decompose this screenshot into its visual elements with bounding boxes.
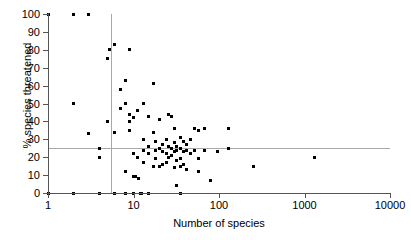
data-point bbox=[87, 13, 90, 16]
data-point bbox=[147, 145, 150, 148]
data-point bbox=[128, 129, 131, 132]
data-point bbox=[132, 152, 135, 155]
data-point bbox=[197, 157, 200, 160]
data-point bbox=[173, 127, 176, 130]
data-point bbox=[137, 177, 140, 180]
x-axis-tick bbox=[390, 193, 391, 198]
data-point bbox=[161, 143, 164, 146]
data-point bbox=[106, 57, 109, 60]
data-point bbox=[152, 131, 155, 134]
data-point bbox=[185, 168, 188, 171]
data-point bbox=[185, 149, 188, 152]
data-point bbox=[154, 149, 157, 152]
y-axis-tick bbox=[43, 139, 48, 140]
x-axis-tick-label: 10000 bbox=[375, 200, 406, 211]
data-point bbox=[147, 152, 150, 155]
data-point bbox=[108, 48, 111, 51]
data-point bbox=[175, 184, 178, 187]
data-point bbox=[170, 147, 173, 150]
data-point bbox=[173, 141, 176, 144]
data-point bbox=[197, 170, 200, 173]
y-axis-tick bbox=[43, 104, 48, 105]
data-point bbox=[165, 152, 168, 155]
data-point bbox=[216, 150, 219, 153]
data-point bbox=[128, 48, 131, 51]
data-point bbox=[185, 143, 188, 146]
data-point bbox=[128, 113, 131, 116]
data-point bbox=[132, 116, 135, 119]
data-point bbox=[182, 140, 185, 143]
data-point bbox=[209, 179, 212, 182]
y-axis-tick bbox=[43, 157, 48, 158]
data-point bbox=[154, 157, 157, 160]
data-point bbox=[142, 161, 145, 164]
data-point bbox=[182, 150, 185, 153]
data-point bbox=[179, 136, 182, 139]
plot-area bbox=[48, 14, 390, 193]
y-axis-tick bbox=[43, 14, 48, 15]
data-point bbox=[136, 109, 139, 112]
data-point bbox=[197, 129, 200, 132]
data-point bbox=[119, 107, 122, 110]
data-point bbox=[147, 115, 150, 118]
x-axis-tick bbox=[48, 193, 49, 198]
data-point bbox=[170, 154, 173, 157]
data-point bbox=[189, 138, 192, 141]
data-point bbox=[106, 120, 109, 123]
x-axis-tick-label: 100 bbox=[210, 200, 228, 211]
x-axis-tick-label: 10 bbox=[127, 200, 139, 211]
y-axis-title: % species threatened bbox=[22, 21, 33, 171]
data-point bbox=[182, 163, 185, 166]
scatter-plot-figure: 0102030405060708090100 % species threate… bbox=[0, 0, 411, 240]
data-point bbox=[154, 140, 157, 143]
y-axis-tick bbox=[43, 175, 48, 176]
data-point bbox=[152, 82, 155, 85]
data-point bbox=[142, 102, 145, 105]
data-point bbox=[170, 115, 173, 118]
data-point bbox=[173, 166, 176, 169]
data-point bbox=[113, 43, 116, 46]
data-point bbox=[142, 149, 145, 152]
data-point bbox=[189, 152, 192, 155]
data-point bbox=[124, 102, 127, 105]
data-point bbox=[227, 147, 230, 150]
data-point bbox=[203, 127, 206, 130]
data-point bbox=[142, 138, 145, 141]
y-axis-tick bbox=[43, 68, 48, 69]
x-axis-tick-label: 1000 bbox=[292, 200, 316, 211]
data-point bbox=[165, 138, 168, 141]
data-point bbox=[87, 132, 90, 135]
data-point bbox=[193, 127, 196, 130]
x-axis-title: Number of species bbox=[48, 218, 390, 229]
data-point bbox=[158, 118, 161, 121]
data-point bbox=[193, 149, 196, 152]
x-axis-tick bbox=[134, 193, 135, 198]
x-axis-tick bbox=[219, 193, 220, 198]
y-axis-tick bbox=[43, 86, 48, 87]
data-point bbox=[124, 170, 127, 173]
data-point bbox=[124, 79, 127, 82]
data-point bbox=[136, 156, 139, 159]
data-point bbox=[72, 102, 75, 105]
data-point bbox=[165, 161, 168, 164]
data-point bbox=[98, 156, 101, 159]
data-point bbox=[158, 147, 161, 150]
y-axis-tick bbox=[43, 32, 48, 33]
y-axis-tick-label: 0 bbox=[14, 188, 40, 199]
y-axis-tick bbox=[43, 50, 48, 51]
data-point bbox=[252, 165, 255, 168]
y-axis-tick-label: 100 bbox=[14, 9, 40, 20]
data-point bbox=[152, 165, 155, 168]
x-axis-tick bbox=[305, 193, 306, 198]
y-axis-tick bbox=[43, 121, 48, 122]
data-point bbox=[203, 149, 206, 152]
y-axis-line bbox=[48, 13, 49, 194]
data-point bbox=[98, 147, 101, 150]
y-axis-tick-label: 10 bbox=[14, 170, 40, 181]
data-point bbox=[179, 147, 182, 150]
data-point bbox=[72, 13, 75, 16]
x-axis-tick-label: 1 bbox=[45, 200, 51, 211]
data-point bbox=[179, 157, 182, 160]
data-point bbox=[227, 127, 230, 130]
reference-line-vertical bbox=[111, 14, 112, 193]
